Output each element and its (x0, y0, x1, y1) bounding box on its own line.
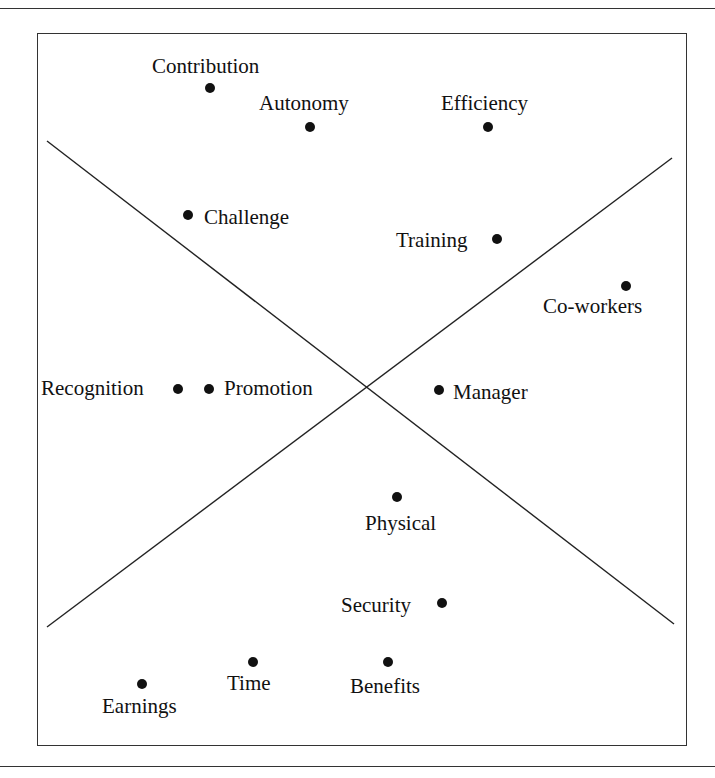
point-manager-dot (434, 385, 444, 395)
point-contribution-label: Contribution (152, 56, 259, 77)
bottom-rule (0, 766, 715, 767)
point-recognition-dot (173, 384, 183, 394)
point-security-label: Security (341, 595, 411, 616)
point-recognition-label: Recognition (41, 378, 144, 399)
point-autonomy-label: Autonomy (259, 93, 349, 114)
point-promotion-dot (204, 384, 214, 394)
point-contribution-dot (205, 83, 215, 93)
point-physical-label: Physical (365, 513, 436, 534)
point-time-label: Time (227, 673, 271, 694)
point-co-workers-label: Co-workers (543, 296, 642, 317)
point-earnings-dot (137, 679, 147, 689)
point-efficiency-label: Efficiency (441, 93, 528, 114)
point-security-dot (437, 598, 447, 608)
point-training-dot (492, 234, 502, 244)
point-earnings-label: Earnings (102, 696, 177, 717)
point-benefits-label: Benefits (350, 676, 420, 697)
point-challenge-dot (183, 210, 193, 220)
point-manager-label: Manager (453, 382, 528, 403)
point-challenge-label: Challenge (204, 207, 289, 228)
point-time-dot (248, 657, 258, 667)
point-co-workers-dot (621, 281, 631, 291)
point-training-label: Training (396, 230, 468, 251)
point-benefits-dot (383, 657, 393, 667)
point-autonomy-dot (305, 122, 315, 132)
point-physical-dot (392, 492, 402, 502)
point-promotion-label: Promotion (224, 378, 313, 399)
point-efficiency-dot (483, 122, 493, 132)
